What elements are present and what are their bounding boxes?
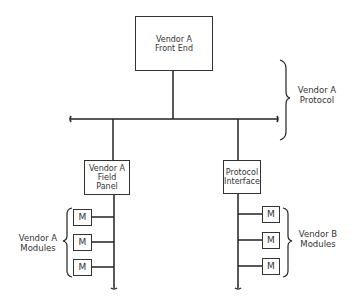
vendor-a-front-end-box: Vendor A Front End xyxy=(135,16,213,71)
vendor-a-module-3: M xyxy=(73,259,92,276)
protocol-interface-box: Protocol Interface xyxy=(223,160,261,194)
bus-break-left xyxy=(70,116,71,122)
vendor-b-modules-label-line2: Modules xyxy=(293,240,343,250)
bus-break-right xyxy=(277,116,278,122)
field-panel-label-line1: Vendor A xyxy=(89,164,125,173)
vendor-b-modules-label: Vendor B Modules xyxy=(293,230,343,249)
vendor-a-modules-label-line2: Modules xyxy=(14,244,62,254)
vendor-b-bus-break xyxy=(235,288,241,289)
vendor-a-protocol-label: Vendor A Protocol xyxy=(292,86,342,105)
front-end-label-line2: Front End xyxy=(155,44,193,53)
vendor-a-modules-brace xyxy=(63,208,72,277)
vendor-a-module-2: M xyxy=(73,234,92,251)
field-panel-label-line2: Field xyxy=(89,173,125,182)
vendor-b-modules-brace xyxy=(283,208,292,277)
vendor-b-module-1: M xyxy=(262,206,280,223)
vendor-a-bus-break xyxy=(111,288,117,289)
vendor-a-protocol-brace xyxy=(280,60,290,140)
field-panel-label-line3: Panel xyxy=(89,182,125,191)
vendor-a-module-1: M xyxy=(73,209,92,226)
vendor-b-module-3: M xyxy=(262,258,280,275)
vendor-a-field-panel-box: Vendor A Field Panel xyxy=(84,160,130,195)
protocol-interface-label-line2: Interface xyxy=(224,177,260,186)
vendor-a-modules-label: Vendor A Modules xyxy=(14,234,62,253)
vendor-b-module-2: M xyxy=(262,232,280,249)
front-end-label-line1: Vendor A xyxy=(155,35,193,44)
protocol-label-line2: Protocol xyxy=(292,96,342,106)
protocol-interface-label-line1: Protocol xyxy=(224,168,260,177)
